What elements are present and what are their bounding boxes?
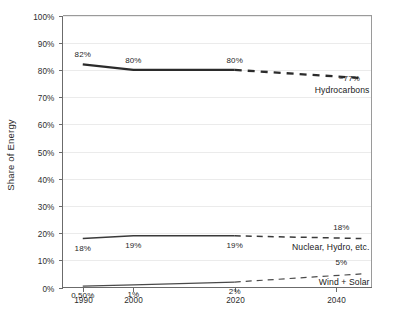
x-tick-label: 2040 [327, 296, 346, 305]
projection-value-label: 18% [333, 223, 349, 232]
data-point-label: 19% [227, 241, 243, 250]
y-tick-label: 90% [38, 40, 55, 49]
data-point-label: 80% [125, 56, 141, 65]
y-tick-label: 20% [38, 230, 55, 239]
series-line-solid [83, 282, 235, 286]
y-tick-label: 40% [38, 176, 55, 185]
data-point-label: 1% [128, 290, 140, 299]
data-point-label: 80% [227, 56, 243, 65]
series-line-dashed [235, 236, 362, 239]
y-tick-label: 70% [38, 94, 55, 103]
gridlines-group [63, 17, 372, 261]
series-name-label: Nuclear, Hydro, etc. [292, 242, 369, 252]
y-axis-title: Share of Energy [5, 119, 16, 191]
data-point-label: 19% [125, 241, 141, 250]
data-point-label: 2% [229, 287, 241, 296]
x-axis-ticks: 1990200020202040 [74, 288, 346, 305]
chart-canvas: 0%10%20%30%40%50%60%70%80%90%100% 199020… [0, 0, 396, 315]
series-name-label: Wind + Solar [319, 277, 370, 287]
data-point-labels: 82%80%80%18%19%19%0.50%1%2% [71, 50, 243, 300]
series-name-label: Hydrocarbons [315, 85, 370, 95]
energy-share-chart: 0%10%20%30%40%50%60%70%80%90%100% 199020… [0, 0, 396, 315]
series-line-solid [83, 64, 235, 69]
series-line-solid [83, 236, 235, 239]
y-tick-label: 10% [38, 257, 55, 266]
data-point-label: 0.50% [71, 291, 94, 300]
projection-value-label: 5% [335, 258, 347, 267]
x-tick-label: 2020 [226, 296, 245, 305]
y-tick-label: 60% [38, 121, 55, 130]
data-point-label: 18% [75, 244, 91, 253]
y-tick-label: 80% [38, 67, 55, 76]
y-tick-label: 50% [38, 149, 55, 158]
data-point-label: 82% [75, 50, 91, 59]
y-tick-label: 0% [42, 285, 54, 294]
y-axis-ticks: 0%10%20%30%40%50%60%70%80%90%100% [33, 13, 62, 294]
y-tick-label: 100% [33, 13, 54, 22]
series-name-labels: ~77%Hydrocarbons18%Nuclear, Hydro, etc.5… [292, 74, 370, 287]
projection-value-label: ~77% [339, 74, 360, 83]
y-tick-label: 30% [38, 203, 55, 212]
